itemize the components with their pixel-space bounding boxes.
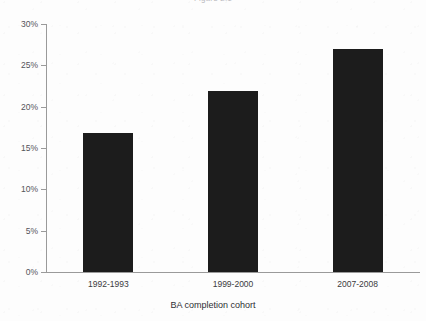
x-axis-tick-label: 2007-2008 xyxy=(337,279,378,289)
y-axis-tick xyxy=(41,107,46,108)
y-axis-tick-label: 5% xyxy=(0,226,38,236)
x-axis-title: BA completion cohort xyxy=(0,300,426,310)
bar xyxy=(208,91,258,272)
y-axis-tick xyxy=(41,231,46,232)
y-axis-tick xyxy=(41,189,46,190)
bar xyxy=(333,49,383,272)
y-axis-tick-label: 10% xyxy=(0,184,38,194)
x-axis-tick-label: 1999-2000 xyxy=(213,279,254,289)
y-axis-tick-label: 15% xyxy=(0,143,38,153)
chart-figure: Figure 2.1 0%5%10%15%20%25%30% 1992-1993… xyxy=(0,0,426,321)
x-axis-line xyxy=(46,272,420,273)
bar xyxy=(83,133,133,272)
x-axis-tick-label: 1992-1993 xyxy=(88,279,129,289)
y-axis-tick xyxy=(41,24,46,25)
y-axis-line xyxy=(46,24,47,273)
y-axis-tick-label: 0% xyxy=(0,267,38,277)
y-axis-tick xyxy=(41,65,46,66)
y-axis-tick-label: 30% xyxy=(0,19,38,29)
plot-area: 0%5%10%15%20%25%30% 1992-19931999-200020… xyxy=(0,0,426,321)
y-axis-tick xyxy=(41,272,46,273)
y-axis-tick-label: 25% xyxy=(0,60,38,70)
y-axis-tick xyxy=(41,148,46,149)
y-axis-tick-label: 20% xyxy=(0,102,38,112)
